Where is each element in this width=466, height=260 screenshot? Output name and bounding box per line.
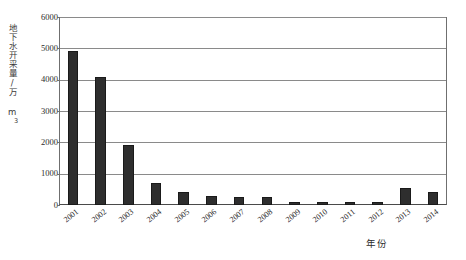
y-axis-tick-label: 5000 (24, 44, 58, 53)
x-axis-tick-label: 2006 (201, 208, 219, 225)
x-axis-tick-label: 2012 (367, 208, 385, 225)
bar-chart: 地下水开采量/万 m3 0100020003000400050006000 20… (0, 0, 466, 260)
bar (95, 77, 106, 205)
x-axis-tick-label: 2013 (395, 208, 413, 225)
bar (68, 51, 79, 205)
y-axis-tick-label: 0 (24, 201, 58, 210)
y-axis-title: 地下水开采量/万 m3 (2, 18, 20, 130)
bar (262, 197, 273, 205)
bar (178, 192, 189, 205)
x-axis-title: 年份 (366, 236, 387, 250)
x-axis-tick-label: 2011 (339, 208, 357, 224)
y-axis-title-text: 地下水开采量/万 m (7, 24, 17, 117)
bar (289, 202, 300, 205)
x-axis-tick-label: 2004 (145, 208, 163, 225)
bar (234, 197, 245, 205)
x-axis-tick-label: 2010 (312, 208, 330, 225)
x-axis-tick-label: 2009 (284, 208, 302, 225)
bar (400, 188, 411, 205)
y-axis-tick-label: 6000 (24, 13, 58, 22)
y-axis-tick-label: 4000 (24, 75, 58, 84)
bar (345, 202, 356, 205)
x-axis-tick-label: 2008 (256, 208, 274, 225)
y-axis-tick-label: 2000 (24, 138, 58, 147)
y-axis-tick-labels: 0100020003000400050006000 (22, 0, 58, 260)
bar (428, 192, 439, 205)
x-axis-tick-label: 2001 (62, 208, 80, 225)
x-axis-tick-label: 2007 (229, 208, 247, 225)
x-axis-tick-label: 2014 (423, 208, 441, 225)
bar (206, 196, 217, 205)
bar (123, 145, 134, 205)
x-axis-tick-label: 2005 (173, 208, 191, 225)
bar (372, 202, 383, 205)
x-axis-tick-labels: 2001200220032004200520062007200820092010… (59, 206, 447, 246)
bar (151, 183, 162, 205)
x-axis-tick-label: 2002 (90, 208, 108, 225)
x-axis-tick-label: 2003 (118, 208, 136, 225)
y-axis-tick-label: 1000 (24, 169, 58, 178)
y-axis-title-superscript: 3 (12, 117, 20, 125)
bar-series (59, 17, 447, 205)
bar (317, 202, 328, 205)
y-axis-tick-label: 3000 (24, 107, 58, 116)
